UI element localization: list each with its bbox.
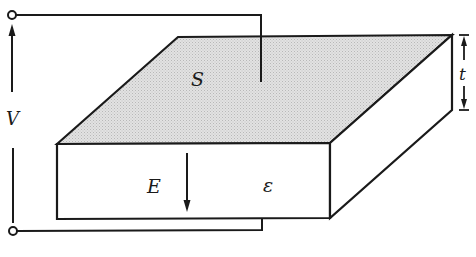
thickness-arrow-down-head xyxy=(461,99,467,109)
top-terminal xyxy=(8,11,16,19)
bottom-wire xyxy=(17,219,262,231)
field-label: E xyxy=(146,175,161,197)
thickness-label: t xyxy=(459,64,466,84)
front-face xyxy=(57,143,330,219)
voltage-arrow-head xyxy=(9,24,16,36)
thickness-arrow-up-head xyxy=(461,36,467,46)
area-label: S xyxy=(191,68,204,90)
bottom-terminal xyxy=(9,227,17,235)
voltage-label: V xyxy=(6,108,21,129)
permittivity-label: ε xyxy=(263,174,273,196)
capacitor-diagram: S V E ε t xyxy=(0,0,476,257)
